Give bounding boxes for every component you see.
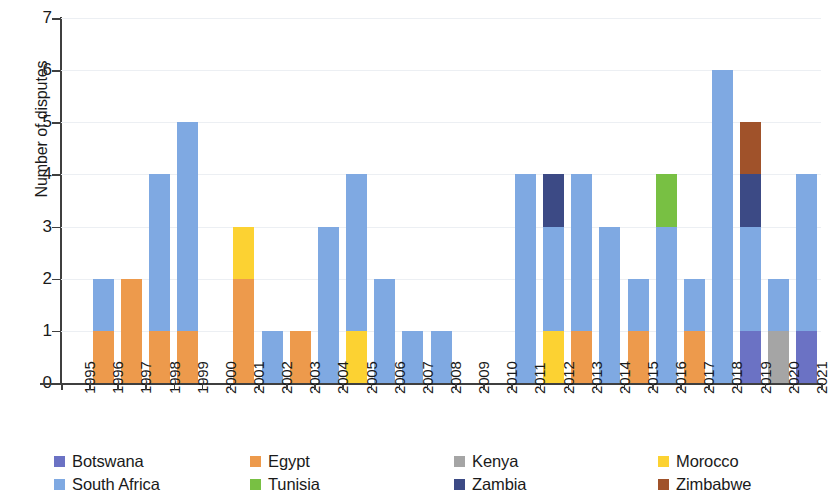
- legend-label: South Africa: [72, 475, 160, 494]
- y-axis-tick: [52, 18, 61, 20]
- legend-item-zambia[interactable]: Zambia: [454, 473, 526, 495]
- bar-segment: [656, 227, 677, 383]
- x-axis-tick: [145, 383, 147, 390]
- legend-label: Botswana: [72, 452, 144, 471]
- x-axis-tick: [624, 383, 626, 390]
- bar-segment: [177, 122, 198, 331]
- legend-swatch-icon: [54, 479, 65, 490]
- x-axis-tick: [455, 383, 457, 390]
- legend-swatch-icon: [454, 456, 465, 467]
- bar-segment: [571, 174, 592, 330]
- legend-label: Zambia: [472, 475, 526, 494]
- x-axis-tick: [708, 383, 710, 390]
- gridline: [61, 279, 821, 280]
- x-axis-tick: [793, 383, 795, 390]
- x-axis-tick: [680, 383, 682, 390]
- legend-item-tunisia[interactable]: Tunisia: [250, 473, 320, 495]
- x-axis-tick: [371, 383, 373, 390]
- bar-segment: [796, 174, 817, 330]
- bar-segment: [628, 279, 649, 331]
- x-axis-tick: [286, 383, 288, 390]
- bar-segment: [684, 279, 705, 331]
- plot-area: [61, 18, 821, 383]
- y-axis-tick: [52, 70, 61, 72]
- bar-segment: [740, 174, 761, 226]
- legend-item-botswana[interactable]: Botswana: [54, 450, 144, 472]
- legend-swatch-icon: [658, 456, 669, 467]
- x-axis-tick: [314, 383, 316, 390]
- chart-legend: BotswanaEgyptKenyaMoroccoSouth AfricaTun…: [54, 450, 823, 496]
- bar-segment: [740, 122, 761, 174]
- y-axis-tick-label: 4: [18, 165, 52, 182]
- x-axis-tick: [61, 383, 63, 390]
- y-axis-tick-label: 5: [18, 113, 52, 130]
- y-axis-tick: [52, 383, 61, 385]
- gridline: [61, 227, 821, 228]
- legend-swatch-icon: [54, 456, 65, 467]
- bar-stack: [543, 174, 564, 383]
- legend-item-south-africa[interactable]: South Africa: [54, 473, 160, 495]
- x-axis-tick: [540, 383, 542, 390]
- bar-segment: [93, 279, 114, 331]
- bar-stack: [346, 174, 367, 383]
- x-axis-tick: [230, 383, 232, 390]
- legend-label: Morocco: [676, 452, 739, 471]
- legend-swatch-icon: [250, 456, 261, 467]
- bar-stack: [515, 174, 536, 383]
- y-axis-tick-label: 6: [18, 61, 52, 78]
- bar-stack: [599, 227, 620, 383]
- y-axis-tick-label: 7: [18, 9, 52, 26]
- legend-swatch-icon: [454, 479, 465, 490]
- x-axis-tick: [568, 383, 570, 390]
- bar-stack: [712, 70, 733, 383]
- bar-stack: [740, 122, 761, 383]
- y-axis-tick: [52, 279, 61, 281]
- gridline: [61, 174, 821, 175]
- y-axis-tick: [52, 122, 61, 124]
- x-axis-tick: [89, 383, 91, 390]
- y-axis-tick: [52, 331, 61, 333]
- y-axis-tick-labels: 01234567: [8, 0, 52, 496]
- bar-segment: [543, 174, 564, 226]
- bar-stack: [318, 227, 339, 383]
- y-axis-tick-label: 2: [18, 270, 52, 287]
- legend-label: Zimbabwe: [676, 475, 751, 494]
- gridline: [61, 122, 821, 123]
- bar-stack: [233, 227, 254, 383]
- x-axis-tick: [765, 383, 767, 390]
- bar-segment: [768, 279, 789, 331]
- legend-item-kenya[interactable]: Kenya: [454, 450, 518, 472]
- x-axis-tick: [174, 383, 176, 390]
- x-axis-tick: [117, 383, 119, 390]
- x-axis-tick: [737, 383, 739, 390]
- gridline: [61, 70, 821, 71]
- bar-segment: [233, 227, 254, 279]
- bar-stack: [149, 174, 170, 383]
- legend-swatch-icon: [658, 479, 669, 490]
- bar-segment: [543, 227, 564, 331]
- bar-stack: [796, 174, 817, 383]
- y-axis-tick: [52, 227, 61, 229]
- x-axis-tick: [427, 383, 429, 390]
- y-axis-tick-label: 3: [18, 218, 52, 235]
- bar-stack: [656, 174, 677, 383]
- x-axis-tick: [511, 383, 513, 390]
- bar-segment: [712, 70, 733, 383]
- x-axis-tick: [399, 383, 401, 390]
- x-axis-tick: [596, 383, 598, 390]
- bar-segment: [346, 174, 367, 330]
- y-axis-tick: [52, 174, 61, 176]
- legend-item-zimbabwe[interactable]: Zimbabwe: [658, 473, 751, 495]
- bar-segment: [149, 174, 170, 330]
- x-axis-tick: [483, 383, 485, 390]
- legend-label: Kenya: [472, 452, 518, 471]
- bar-stack: [177, 122, 198, 383]
- bar-segment: [318, 227, 339, 383]
- x-axis-tick: [258, 383, 260, 390]
- legend-item-morocco[interactable]: Morocco: [658, 450, 739, 472]
- legend-swatch-icon: [250, 479, 261, 490]
- legend-item-egypt[interactable]: Egypt: [250, 450, 310, 472]
- x-axis-tick: [652, 383, 654, 390]
- bar-segment: [740, 227, 761, 331]
- legend-label: Tunisia: [268, 475, 320, 494]
